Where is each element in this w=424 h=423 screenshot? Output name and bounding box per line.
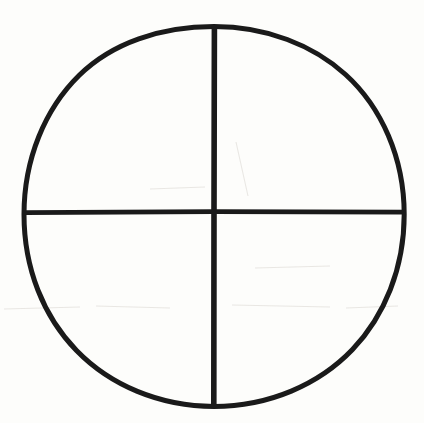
quadrant-top-right <box>214 26 404 212</box>
quadrant-bottom-left <box>24 212 214 406</box>
horizontal-diameter <box>25 212 403 213</box>
scan-artifacts <box>4 142 398 309</box>
vertical-diameter <box>214 27 215 405</box>
circle-quadrant-diagram: Circle divided into four quadrants A han… <box>0 0 424 423</box>
figure-canvas: Circle divided into four quadrants A han… <box>0 0 424 423</box>
quadrant-top-left <box>24 26 214 212</box>
quadrant-bottom-right <box>214 212 404 406</box>
